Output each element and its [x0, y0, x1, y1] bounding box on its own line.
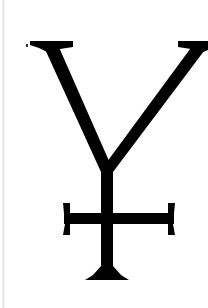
left-top-serif — [30, 41, 73, 52]
image-canvas — [0, 0, 208, 308]
cross-bar — [64, 213, 174, 224]
right-arm — [101, 45, 207, 186]
base-foot — [85, 266, 129, 280]
y-cross-symbol — [0, 0, 208, 308]
left-arm — [44, 45, 113, 186]
